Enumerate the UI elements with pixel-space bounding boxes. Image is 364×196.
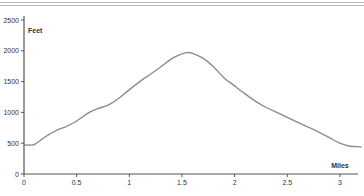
x-tick-label: 2 <box>233 179 237 186</box>
x-tick-label: 0 <box>22 179 26 186</box>
x-tick-label: 0.5 <box>72 179 82 186</box>
x-axis-title: Miles <box>331 162 349 169</box>
x-tick-label: 1.5 <box>177 179 187 186</box>
y-tick-label: 1000 <box>3 109 19 116</box>
x-tick-label: 1 <box>127 179 131 186</box>
elevation-line <box>24 53 361 147</box>
y-tick-label: 2000 <box>3 47 19 54</box>
y-axis-title: Feet <box>28 27 43 34</box>
y-tick-label: 500 <box>7 140 19 147</box>
y-tick-label: 0 <box>15 171 19 178</box>
y-axis: 05001000150020002500 <box>3 16 24 178</box>
x-tick-label: 3 <box>338 179 342 186</box>
x-axis: 00.511.522.53 <box>22 174 358 186</box>
y-tick-label: 2500 <box>3 17 19 24</box>
x-tick-label: 2.5 <box>282 179 292 186</box>
elevation-chart: 05001000150020002500 00.511.522.53 Feet … <box>0 0 364 196</box>
y-tick-label: 1500 <box>3 78 19 85</box>
